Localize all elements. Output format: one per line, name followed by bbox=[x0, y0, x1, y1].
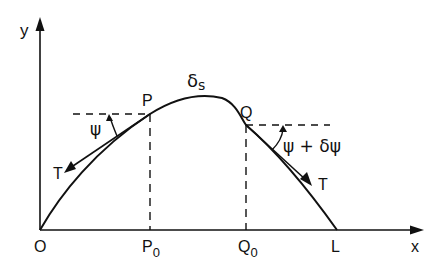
point-p-label: P bbox=[142, 92, 153, 109]
x-axis bbox=[40, 226, 424, 235]
catenary-curve bbox=[40, 96, 337, 230]
y-axis bbox=[36, 17, 45, 230]
tension-left-label: T bbox=[53, 165, 63, 182]
angle-psi-label: ψ bbox=[90, 119, 101, 139]
arc-element-label: δs bbox=[187, 70, 205, 93]
point-q0-label: Q0 bbox=[238, 238, 258, 260]
point-l-label: L bbox=[331, 238, 340, 255]
point-q-label: Q bbox=[240, 104, 252, 121]
arrowhead-icon bbox=[106, 114, 113, 121]
x-axis-arrow-icon bbox=[410, 226, 424, 235]
arrowhead-icon bbox=[64, 161, 76, 173]
y-axis-label: y bbox=[20, 21, 29, 40]
angle-arc-psi bbox=[106, 114, 117, 136]
point-p0-label: P0 bbox=[142, 238, 160, 260]
origin-label: O bbox=[34, 238, 46, 255]
catenary-diagram: y x O P Q P0 Q0 L δs ψ ψ + δψ T T bbox=[0, 0, 442, 271]
tension-right-label: T bbox=[318, 176, 328, 193]
tension-arrow-left bbox=[64, 114, 150, 173]
arrowhead-icon bbox=[279, 125, 287, 132]
x-axis-label: x bbox=[411, 238, 419, 255]
angle-psi-plus-dpsi-label: ψ + δψ bbox=[283, 136, 341, 156]
y-axis-arrow-icon bbox=[36, 17, 45, 31]
